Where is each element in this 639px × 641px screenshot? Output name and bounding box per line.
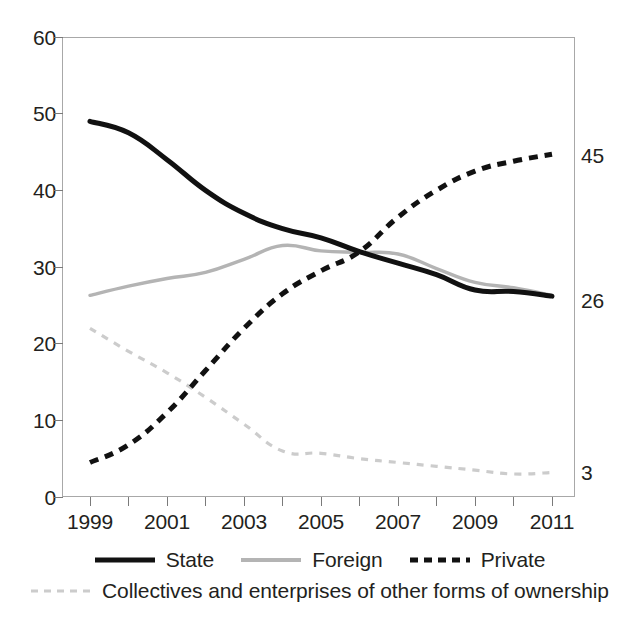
x-tick-label: 2007 <box>358 511 438 533</box>
x-tick-label: 2009 <box>435 511 515 533</box>
x-tick-mark <box>205 497 206 506</box>
x-tick-mark <box>398 497 399 506</box>
legend-label-private: Private <box>481 548 546 572</box>
x-tick-mark <box>167 497 168 506</box>
legend-item-state[interactable]: State <box>94 548 215 572</box>
end-label-collectives: 3 <box>581 462 592 483</box>
y-tick-label: 30 <box>12 257 56 278</box>
legend-label-collectives: Collectives and enterprises of other for… <box>102 579 609 603</box>
x-tick-label: 2001 <box>127 511 207 533</box>
legend-label-foreign: Foreign <box>312 548 383 572</box>
x-tick-label: 2011 <box>512 511 592 533</box>
x-tick-mark <box>436 497 437 506</box>
x-tick-mark <box>513 497 514 506</box>
x-tick-mark <box>321 497 322 506</box>
y-tick-label: 40 <box>12 180 56 201</box>
legend-swatch-dashed-gray-icon <box>30 585 92 597</box>
y-tick-label: 50 <box>12 103 56 124</box>
legend-row-primary: State Foreign Private <box>0 548 639 572</box>
x-tick-mark <box>359 497 360 506</box>
legend-swatch-solid-gray-icon <box>240 554 302 566</box>
x-tick-mark <box>128 497 129 506</box>
legend-label-state: State <box>166 548 215 572</box>
end-label-state: 26 <box>581 290 604 311</box>
x-tick-label: 2005 <box>281 511 361 533</box>
end-label-private: 45 <box>581 145 604 166</box>
x-tick-mark <box>475 497 476 506</box>
y-tick-label: 10 <box>12 410 56 431</box>
legend-item-foreign[interactable]: Foreign <box>240 548 383 572</box>
x-tick-label: 1999 <box>50 511 130 533</box>
chart-legend: State Foreign Private Collectives and <box>0 548 639 603</box>
legend-swatch-solid-black-icon <box>94 554 156 566</box>
x-tick-label: 2003 <box>204 511 284 533</box>
y-tick-label: 20 <box>12 333 56 354</box>
line-chart: 60 50 40 30 20 10 0 1999 2001 2003 2005 <box>0 0 639 641</box>
legend-swatch-dashed-black-icon <box>409 554 471 566</box>
x-tick-mark <box>282 497 283 506</box>
y-axis: 60 50 40 30 20 10 0 <box>0 0 56 641</box>
series-line-private <box>90 154 552 462</box>
legend-item-collectives[interactable]: Collectives and enterprises of other for… <box>30 579 609 603</box>
x-tick-mark <box>90 497 91 506</box>
series-plot <box>62 37 575 497</box>
series-line-foreign <box>90 245 552 295</box>
x-tick-mark <box>552 497 553 506</box>
legend-item-private[interactable]: Private <box>409 548 546 572</box>
x-tick-mark <box>244 497 245 506</box>
legend-row-secondary: Collectives and enterprises of other for… <box>0 579 639 603</box>
series-line-collectives <box>90 328 552 474</box>
y-tick-label: 60 <box>12 27 56 48</box>
y-tick-label: 0 <box>12 487 56 508</box>
y-tick-mark <box>54 497 63 498</box>
